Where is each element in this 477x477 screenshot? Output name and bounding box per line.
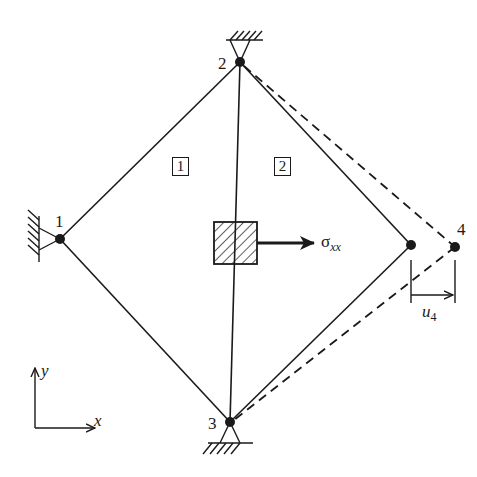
displacement-dimension [411,260,455,303]
edge-r-3 [230,245,411,422]
element-label-1: 1 [172,157,189,176]
fe-diagram: 1 2 3 4 1 2 σxx u4 y x [0,0,477,477]
edge-2-r [240,62,411,245]
edge-1-3 [60,239,230,422]
support-node-2 [226,31,263,62]
stress-label: σxx [321,233,341,253]
node-label-2: 2 [218,55,227,72]
y-axis-label: y [41,362,49,379]
node-label-1: 1 [55,213,64,230]
diagram-canvas [0,0,477,477]
node-1 [55,234,65,244]
node-right [406,240,416,250]
node-label-3: 3 [208,415,217,432]
node-4 [450,242,460,252]
node-3 [225,417,235,427]
element-label-2: 2 [274,157,291,176]
stress-element-square [214,222,257,264]
dashed-edge-4-3 [234,247,455,420]
node-2 [235,57,245,67]
displacement-label: u4 [422,303,437,323]
node-label-4: 4 [457,221,466,238]
edge-1-2 [60,62,240,239]
x-axis-label: x [94,412,102,429]
